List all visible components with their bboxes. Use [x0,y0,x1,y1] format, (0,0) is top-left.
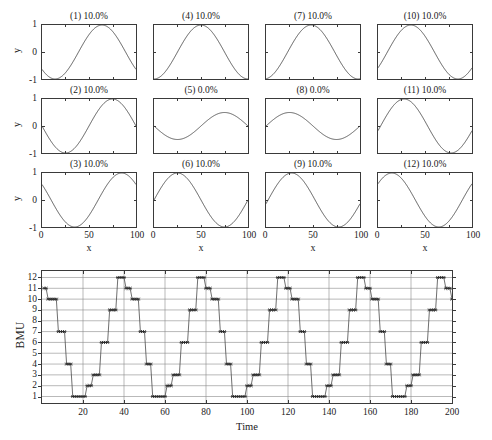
bmu-ytick-label: 7 [15,326,37,336]
panel-ytick-mark [265,200,268,201]
panel-xtick-mark [177,77,178,80]
panel-y-axis-label: y [11,192,22,206]
panel-xtick-mark [65,151,66,154]
bmu-ytick-label: 2 [15,380,37,390]
panel-ytick-mark [41,52,45,53]
bmu-ytick-mark [452,364,456,365]
panel-xtick-mark [401,24,402,27]
panel-xtick-mark [65,172,66,175]
panel-xtick-mark [289,24,290,27]
panel-xtick-mark [289,77,290,80]
bmu-xtick-label: 200 [436,407,468,417]
bmu-ytick-mark [38,277,42,278]
panel-xtick-mark [401,98,402,101]
panel-xtick-mark [65,77,66,80]
bmu-ytick-mark [38,299,42,300]
bmu-xtick-label: 40 [108,407,140,417]
bmu-ytick-mark [452,277,456,278]
bmu-ytick-label: 9 [15,304,37,314]
panel-xtick-mark [65,98,66,101]
panel-ytick-label: -1 [17,75,37,85]
bmu-xtick-mark [288,400,289,404]
panel-ytick-mark [41,24,45,25]
panel-xtick-mark [449,98,450,101]
panel-xtick-mark [201,172,202,175]
panel-xtick-mark [337,225,338,228]
bmu-xtick-label: 80 [190,407,222,417]
panel-xtick-mark [313,24,314,27]
panel-xtick-mark [401,225,402,228]
panel-ytick-mark [153,200,156,201]
bmu-timeseries-chart: BMU Time 1234567891011122040608010012014… [0,252,492,440]
panel-ytick-mark [41,200,45,201]
bmu-xtick-label: 60 [149,407,181,417]
bmu-xtick-label: 160 [354,407,386,417]
bmu-ytick-mark [38,310,42,311]
panel-ytick-mark [470,126,473,127]
bmu-xtick-mark [411,400,412,404]
bmu-xtick-mark [370,400,371,404]
panel-xtick-mark [449,151,450,154]
panel-xtick-mark [313,98,314,101]
panel-xtick-mark [89,172,90,175]
panel-ytick-mark [41,227,45,228]
bmu-ytick-label: 1 [15,391,37,401]
panel-ytick-mark [41,98,45,99]
panel-ytick-mark [41,153,45,154]
panel-xtick-mark [201,151,202,154]
panel-xtick-mark [201,77,202,80]
panel-ytick-mark [265,52,268,53]
panel-xtick-mark [113,151,114,154]
panel-xtick-mark [425,98,426,101]
panel-plot-area-11 [377,98,473,154]
panel-xtick-mark [225,77,226,80]
bmu-xtick-label: 20 [67,407,99,417]
bmu-x-axis-label: Time [207,421,287,432]
bmu-xtick-mark [83,400,84,404]
bmu-ytick-mark [452,299,456,300]
bmu-xtick-mark [452,270,453,274]
bmu-xtick-mark [288,270,289,274]
bmu-ytick-mark [452,288,456,289]
panel-xtick-mark [449,77,450,80]
panel-xtick-mark [449,24,450,27]
panel-ytick-mark [41,126,45,127]
bmu-xtick-label: 180 [395,407,427,417]
bmu-ytick-label: 11 [15,283,37,293]
panel-xtick-mark [177,24,178,27]
bmu-xtick-mark [124,400,125,404]
bmu-ytick-mark [38,332,42,333]
panel-xtick-mark [313,172,314,175]
panel-xtick-mark [113,225,114,228]
panel-ytick-mark [153,52,156,53]
panel-xtick-mark [289,172,290,175]
panel-xtick-label: 0 [139,230,167,240]
panel-ytick-mark [470,200,473,201]
bmu-ytick-mark [452,397,456,398]
panel-xtick-mark [65,225,66,228]
panel-xtick-mark [177,225,178,228]
bmu-ytick-label: 12 [15,272,37,282]
small-multiples-grid: (1) 10.0%10-1y(2) 10.0%10-1y(3) 10.0%10-… [0,0,492,252]
panel-xtick-mark [225,172,226,175]
panel-ytick-mark [377,52,380,53]
panel-ytick-mark [377,126,380,127]
bmu-ytick-mark [452,375,456,376]
panel-ytick-mark [41,172,45,173]
panel-plot-area-10 [377,24,473,80]
bmu-ytick-mark [38,386,42,387]
panel-ytick-mark [41,79,45,80]
panel-xtick-label: 0 [363,230,391,240]
bmu-ytick-mark [38,321,42,322]
panel-title-10: (10) 10.0% [377,11,473,22]
panel-xtick-mark [425,172,426,175]
panel-xtick-label: 100 [459,230,487,240]
panel-ytick-mark [377,200,380,201]
bmu-xtick-mark [411,270,412,274]
panel-xtick-mark [313,77,314,80]
bmu-ytick-label: 10 [15,294,37,304]
panel-xtick-mark [225,225,226,228]
bmu-ytick-mark [38,353,42,354]
bmu-ytick-mark [38,288,42,289]
panel-xtick-label: 0 [251,230,279,240]
